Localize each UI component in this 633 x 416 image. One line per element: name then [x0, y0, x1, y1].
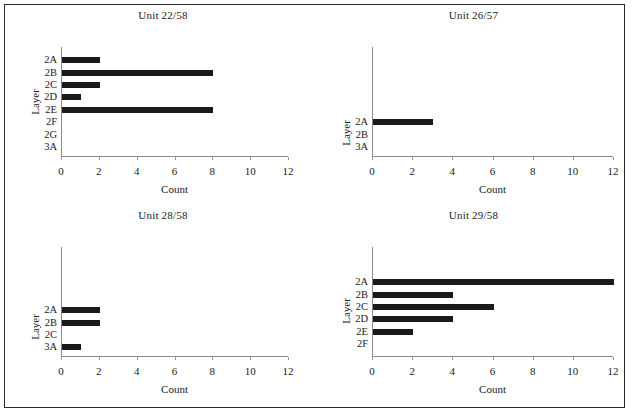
- y-axis-line: [61, 47, 62, 157]
- chart-panel-unit-22-58: Unit 22/580246810122A2B2C2D2E2F2G3ACount…: [5, 9, 321, 209]
- x-tick-label: 4: [450, 365, 456, 377]
- x-tick-label: 10: [245, 165, 256, 177]
- bar: [62, 70, 213, 76]
- y-category-label: 2F: [46, 117, 57, 128]
- y-category-label: 2B: [45, 67, 57, 78]
- x-tick: [250, 157, 251, 160]
- x-tick: [99, 157, 100, 160]
- x-tick-label: 0: [369, 165, 375, 177]
- y-axis-line: [372, 247, 373, 357]
- x-tick: [372, 157, 373, 160]
- y-category-label: 2A: [44, 55, 57, 66]
- bar: [373, 119, 433, 125]
- x-tick-label: 10: [567, 165, 578, 177]
- x-tick: [493, 157, 494, 160]
- x-tick-label: 6: [172, 165, 178, 177]
- x-tick: [288, 157, 289, 160]
- x-tick: [412, 357, 413, 360]
- x-tick-label: 6: [490, 165, 496, 177]
- y-axis-title: Layer: [326, 305, 366, 317]
- figure-frame: Unit 22/580246810122A2B2C2D2E2F2G3ACount…: [4, 4, 625, 408]
- y-category-label: 2C: [45, 80, 57, 91]
- bar: [373, 316, 453, 322]
- bar: [373, 279, 614, 285]
- chart-title: Unit 22/58: [5, 9, 321, 21]
- x-tick-label: 8: [530, 165, 536, 177]
- y-category-label: 2G: [44, 129, 57, 140]
- x-tick: [452, 157, 453, 160]
- x-tick-label: 12: [283, 165, 294, 177]
- x-tick: [573, 157, 574, 160]
- x-tick-label: 2: [96, 165, 102, 177]
- y-axis-title: Layer: [326, 127, 366, 139]
- bar: [373, 304, 494, 310]
- x-tick-label: 6: [490, 365, 496, 377]
- y-category-label: 3A: [355, 142, 368, 153]
- x-axis-title: Count: [372, 183, 613, 195]
- bar: [373, 329, 413, 335]
- x-axis-title: Count: [61, 183, 288, 195]
- x-tick-label: 2: [409, 365, 415, 377]
- x-tick: [613, 157, 614, 160]
- bar: [62, 344, 81, 350]
- plot-area: 0246810122A2B2C3A: [61, 247, 288, 357]
- chart-panel-unit-28-58: Unit 28/580246810122A2B2C3ACountLayer: [5, 209, 321, 409]
- x-tick: [212, 357, 213, 360]
- y-category-label: 3A: [44, 342, 57, 353]
- x-tick: [533, 357, 534, 360]
- plot-area: 0246810122A2B2C2D2E2F2G3A: [61, 47, 288, 157]
- bar: [62, 57, 100, 63]
- chart-panel-unit-26-57: Unit 26/570246810122A2B3ACountLayer: [321, 9, 626, 209]
- y-category-label: 2A: [44, 305, 57, 316]
- x-tick: [212, 157, 213, 160]
- y-axis-title-text: Layer: [29, 82, 41, 122]
- x-tick-label: 4: [450, 165, 456, 177]
- x-tick-label: 8: [210, 165, 216, 177]
- x-tick: [137, 157, 138, 160]
- bar: [373, 292, 453, 298]
- chart-title: Unit 28/58: [5, 209, 321, 221]
- x-tick: [175, 357, 176, 360]
- bar: [62, 307, 100, 313]
- x-tick: [99, 357, 100, 360]
- bar: [62, 82, 100, 88]
- y-axis-line: [61, 247, 62, 357]
- x-tick: [372, 357, 373, 360]
- x-tick: [412, 157, 413, 160]
- x-tick-label: 12: [283, 365, 294, 377]
- y-axis-line: [372, 47, 373, 157]
- x-tick-label: 8: [530, 365, 536, 377]
- y-category-label: 2A: [355, 277, 368, 288]
- x-tick-label: 4: [134, 165, 140, 177]
- x-tick-label: 12: [608, 165, 619, 177]
- x-tick-label: 10: [245, 365, 256, 377]
- x-tick: [288, 357, 289, 360]
- x-tick-label: 2: [96, 365, 102, 377]
- chart-title: Unit 26/57: [321, 9, 626, 21]
- x-tick-label: 4: [134, 365, 140, 377]
- y-axis-title-text: Layer: [29, 307, 41, 347]
- bar: [62, 94, 81, 100]
- bar: [62, 107, 213, 113]
- plot-area: 0246810122A2B3A: [372, 47, 613, 157]
- x-tick-label: 12: [608, 365, 619, 377]
- x-tick: [613, 357, 614, 360]
- y-axis-title-text: Layer: [340, 113, 352, 153]
- x-tick: [61, 157, 62, 160]
- y-axis-title-text: Layer: [340, 291, 352, 331]
- x-tick: [250, 357, 251, 360]
- x-tick: [175, 157, 176, 160]
- x-tick: [493, 357, 494, 360]
- chart-title: Unit 29/58: [321, 209, 626, 221]
- x-axis-title: Count: [372, 383, 613, 395]
- x-tick: [137, 357, 138, 360]
- y-category-label: 3A: [44, 142, 57, 153]
- x-tick-label: 8: [210, 365, 216, 377]
- x-tick-label: 0: [58, 165, 64, 177]
- y-axis-title: Layer: [15, 96, 55, 108]
- x-axis-title: Count: [61, 383, 288, 395]
- y-category-label: 2F: [357, 339, 368, 350]
- chart-panel-unit-29-58: Unit 29/580246810122A2B2C2D2E2FCountLaye…: [321, 209, 626, 409]
- y-category-label: 2E: [356, 327, 368, 338]
- x-tick-label: 0: [369, 365, 375, 377]
